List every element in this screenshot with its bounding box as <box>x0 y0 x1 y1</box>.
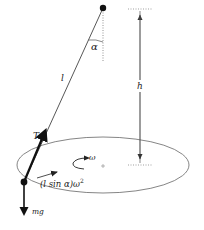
weight-arrowhead-icon <box>20 207 29 216</box>
height-h-label: h <box>137 81 143 91</box>
centripetal-label-exponent: 2 <box>80 177 84 184</box>
conical-pendulum-diagram: α l h T mg ω (l sin α)ω2 <box>0 0 204 230</box>
centripetal-label: (l sin α)ω2 <box>40 177 84 189</box>
omega-label: ω <box>89 153 96 162</box>
pivot-point <box>100 5 106 11</box>
centripetal-label-base: (l sin α)ω <box>40 179 80 189</box>
angle-alpha-label: α <box>91 41 98 52</box>
weight-mg-label: mg <box>32 207 44 216</box>
pendulum-bob <box>21 179 28 186</box>
tension-arrow <box>24 134 44 182</box>
centripetal-arrow <box>37 172 57 178</box>
tension-T-label: T <box>33 131 40 141</box>
diagram-canvas: α l h T mg ω (l sin α)ω2 <box>0 0 204 230</box>
center-plus-icon <box>101 164 105 168</box>
length-l-label: l <box>61 73 64 83</box>
